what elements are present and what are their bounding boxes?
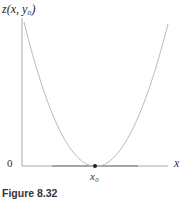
minimum-point: [93, 164, 97, 168]
figure-caption: Figure 8.32: [2, 187, 57, 199]
parabola-curve: [24, 22, 168, 167]
plot-area: [0, 0, 187, 203]
